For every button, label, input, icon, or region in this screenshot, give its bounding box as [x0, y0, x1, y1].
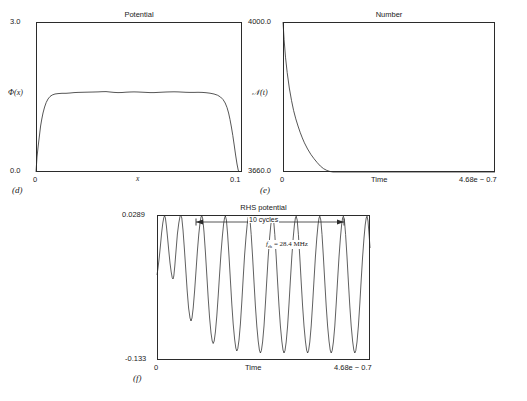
panel-f-xlabel: Time	[245, 363, 261, 372]
frequency-annotation: frh = 28.4 MHz	[264, 240, 310, 249]
frequency-subscript: rh	[268, 244, 272, 249]
panel-f-tag: (f)	[133, 373, 142, 383]
panel-f-curve	[0, 0, 527, 401]
panel-f-xtick-min: 0	[154, 363, 158, 372]
ten-cycles-label: 10 cycles	[248, 216, 279, 223]
panel-f-ytick-min: -0.133	[125, 354, 146, 363]
figure-container: Potential 3.0 0.0 Φ(x) 0 0.1 x (d) Numbe…	[0, 0, 527, 401]
panel-f-ytick-max: 0.0289	[122, 210, 145, 219]
frequency-value: = 28.4 MHz	[274, 240, 308, 248]
panel-f-xtick-max: 4.68e − 0.7	[334, 363, 372, 372]
panel-rhs-potential: RHS potential 10 cycles frh = 28.4 MHz 0…	[0, 0, 527, 401]
